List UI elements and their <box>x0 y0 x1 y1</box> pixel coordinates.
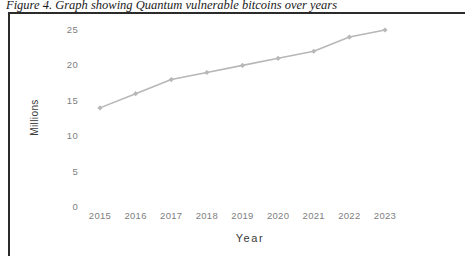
data-point-marker <box>311 49 316 54</box>
data-point-marker <box>97 105 102 110</box>
data-point-marker <box>133 91 138 96</box>
data-point-marker <box>347 34 352 39</box>
data-point-marker <box>382 27 387 32</box>
plot-series-svg <box>0 0 465 256</box>
data-point-marker <box>169 77 174 82</box>
data-point-marker <box>276 56 281 61</box>
data-point-marker <box>204 70 209 75</box>
line-chart: 25 20 15 10 5 0 Millions 2015 2016 2017 … <box>0 0 465 256</box>
data-point-marker <box>240 63 245 68</box>
series-line <box>100 30 385 108</box>
